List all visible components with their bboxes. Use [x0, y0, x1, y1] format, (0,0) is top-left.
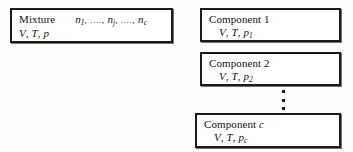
- mixture-amount-last-sub: c: [144, 18, 147, 27]
- component-2-state-line: V, T, p2: [209, 70, 335, 84]
- mixture-separator-1: , ....,: [85, 15, 108, 25]
- component-1-index: 1: [264, 13, 270, 25]
- component-c-content: Component c V, T, pc: [204, 118, 335, 144]
- component-2-pressure-sub: 2: [249, 75, 253, 84]
- mixture-comma-1: ,: [26, 27, 29, 39]
- component-1-volume-symbol: V: [219, 26, 226, 38]
- component-c-title-word: Component: [204, 118, 256, 130]
- component-1-box: Component 1 V, T, p1: [200, 8, 341, 42]
- ellipsis-dot: [282, 99, 285, 102]
- ellipsis-dot: [282, 90, 285, 93]
- component-1-pressure-sub: 1: [249, 31, 253, 40]
- mixture-state-line: V, T, p: [19, 27, 167, 40]
- mixture-components-diagram: Mixture n1, ...., nj, ...., nc V, T, p C…: [0, 0, 353, 152]
- component-1-comma-1: ,: [226, 26, 229, 38]
- mixture-pressure-symbol: p: [43, 27, 49, 39]
- component-1-state-line: V, T, p1: [209, 26, 335, 40]
- component-2-index: 2: [264, 57, 270, 69]
- component-c-comma-1: ,: [221, 131, 224, 143]
- mixture-amounts: n1, ...., nj, ...., nc: [75, 13, 147, 27]
- component-1-title-row: Component 1: [209, 13, 335, 26]
- vertical-ellipsis-icon: [278, 90, 288, 110]
- mixture-amount-mid-sub: j: [113, 18, 115, 27]
- mixture-header-row: Mixture n1, ...., nj, ...., nc: [19, 13, 167, 27]
- component-c-box: Component c V, T, pc: [195, 113, 341, 148]
- component-1-comma-2: ,: [238, 26, 241, 38]
- component-2-title-word: Component: [209, 57, 261, 69]
- mixture-amount-first-sub: 1: [81, 18, 85, 27]
- mixture-comma-2: ,: [38, 27, 41, 39]
- mixture-label: Mixture: [19, 13, 55, 26]
- mixture-box-content: Mixture n1, ...., nj, ...., nc V, T, p: [19, 13, 167, 39]
- component-c-comma-2: ,: [233, 131, 236, 143]
- component-c-volume-symbol: V: [214, 131, 221, 143]
- ellipsis-dot: [282, 107, 285, 110]
- component-1-content: Component 1 V, T, p1: [209, 13, 335, 38]
- component-1-title-word: Component: [209, 13, 261, 25]
- mixture-amount-last: n: [138, 13, 144, 25]
- component-2-content: Component 2 V, T, p2: [209, 57, 335, 82]
- component-c-pressure-sub: c: [244, 136, 247, 145]
- component-2-title-row: Component 2: [209, 57, 335, 70]
- component-c-index: c: [259, 118, 264, 130]
- mixture-amount-first: n: [75, 13, 81, 25]
- mixture-box: Mixture n1, ...., nj, ...., nc V, T, p: [10, 8, 173, 43]
- component-2-comma-2: ,: [238, 70, 241, 82]
- mixture-separator-2: , ....,: [115, 15, 138, 25]
- component-c-state-line: V, T, pc: [204, 131, 335, 145]
- mixture-volume-symbol: V: [19, 27, 26, 39]
- component-c-title-row: Component c: [204, 118, 335, 131]
- component-2-comma-1: ,: [226, 70, 229, 82]
- component-2-box: Component 2 V, T, p2: [200, 52, 341, 86]
- component-2-volume-symbol: V: [219, 70, 226, 82]
